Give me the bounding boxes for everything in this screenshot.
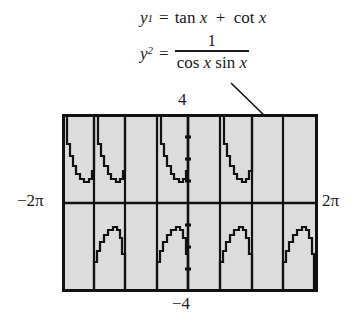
equation-block: y1 = tan x + cot x y2 = 1 cos x sin x bbox=[140, 4, 340, 80]
tan-argument: x bbox=[200, 8, 208, 27]
x-max-label: 2π bbox=[322, 191, 339, 211]
graph-screen bbox=[62, 114, 318, 292]
cos-argument: x bbox=[204, 53, 212, 72]
equation-y2-variable: y bbox=[140, 44, 148, 64]
fraction: 1 cos x sin x bbox=[175, 32, 249, 71]
equation-y2: y2 = 1 cos x sin x bbox=[140, 32, 340, 80]
equation-y1-equals: = bbox=[159, 8, 169, 28]
equation-y2-equals: = bbox=[159, 44, 169, 64]
y-max-label: 4 bbox=[178, 90, 187, 110]
figure-container: y1 = tan x + cot x y2 = 1 cos x sin x bbox=[0, 0, 362, 324]
cos-function: cos bbox=[177, 53, 200, 72]
equation-y1-rhs: tan x + cot x bbox=[175, 8, 267, 28]
sin-argument: x bbox=[239, 53, 247, 72]
cot-function: cot bbox=[234, 8, 255, 27]
plus-operator: + bbox=[216, 8, 226, 27]
y-min-label: −4 bbox=[172, 294, 190, 314]
equation-y1-variable: y bbox=[140, 8, 148, 28]
x-min-label: −2π bbox=[17, 191, 44, 211]
plot-area bbox=[62, 114, 318, 292]
equation-y1: y1 = tan x + cot x bbox=[140, 4, 340, 32]
fraction-numerator: 1 bbox=[202, 32, 223, 50]
cot-argument: x bbox=[259, 8, 267, 27]
tan-function: tan bbox=[175, 8, 196, 27]
fraction-denominator: cos x sin x bbox=[175, 52, 249, 71]
equation-y2-subscript: 2 bbox=[148, 44, 154, 56]
sin-function: sin bbox=[215, 53, 235, 72]
curve-branches-negative bbox=[94, 227, 314, 289]
equation-y1-subscript: 1 bbox=[148, 12, 154, 24]
